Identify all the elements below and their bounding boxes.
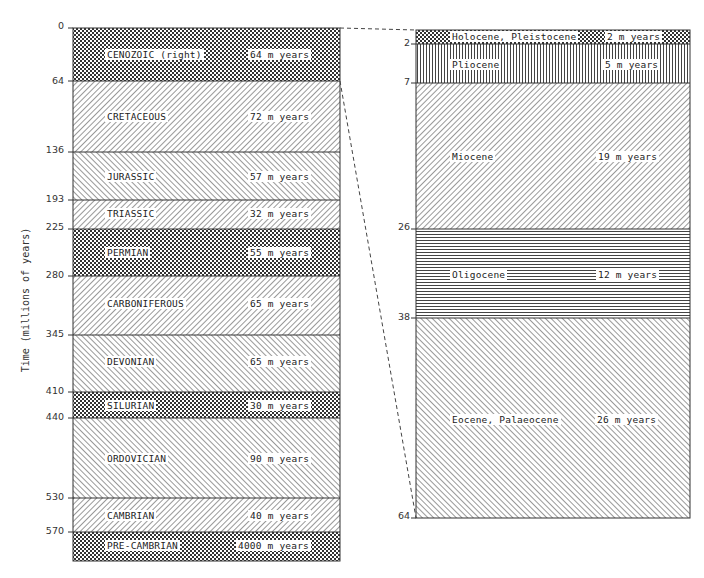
period-name: CARBONIFEROUS bbox=[105, 298, 186, 309]
tick-label: 26 bbox=[376, 222, 410, 232]
epoch-name: Oligocene bbox=[450, 269, 507, 280]
period-name: CRETACEOUS bbox=[105, 111, 168, 122]
period-name: PRE-CAMBRIAN bbox=[105, 540, 180, 551]
geologic-timescale-diagram: Time (millions of years) 0 64 136 193 22… bbox=[0, 0, 704, 578]
epoch-name: Holocene, Pleistocene bbox=[450, 31, 578, 42]
tick-label: 64 bbox=[376, 511, 410, 521]
tick-label: 193 bbox=[30, 194, 64, 204]
tick-label: 570 bbox=[30, 526, 64, 536]
left-column-bands bbox=[73, 28, 340, 561]
period-duration: 30 m years bbox=[248, 400, 311, 411]
period-name: SILURIAN bbox=[105, 400, 156, 411]
period-duration: 32 m years bbox=[248, 208, 311, 219]
period-name: PERMIAN bbox=[105, 247, 150, 258]
tick-label: 345 bbox=[30, 329, 64, 339]
period-duration: 40 m years bbox=[248, 510, 311, 521]
period-name: JURASSIC bbox=[105, 171, 156, 182]
period-duration: 65 m years bbox=[248, 356, 311, 367]
epoch-name: Pliocene bbox=[450, 59, 501, 70]
period-duration: 64 m years bbox=[248, 49, 311, 60]
period-duration: 65 m years bbox=[248, 298, 311, 309]
tick-label: 38 bbox=[376, 312, 410, 322]
period-duration: 55 m years bbox=[248, 247, 311, 258]
period-name: TRIASSIC bbox=[105, 208, 156, 219]
tick-label: 64 bbox=[30, 76, 64, 86]
tick-label: 0 bbox=[30, 21, 64, 31]
tick-label: 530 bbox=[30, 492, 64, 502]
period-duration: 57 m years bbox=[248, 171, 311, 182]
tick-label: 2 bbox=[376, 38, 410, 48]
zoom-connector-lines bbox=[340, 28, 416, 518]
tick-label: 136 bbox=[30, 145, 64, 155]
period-duration: 72 m years bbox=[248, 111, 311, 122]
period-name: CAMBRIAN bbox=[105, 510, 156, 521]
tick-label: 410 bbox=[30, 386, 64, 396]
epoch-duration: 2 m years bbox=[605, 31, 662, 42]
epoch-duration: 19 m years bbox=[596, 151, 659, 162]
period-name: DEVONIAN bbox=[105, 356, 156, 367]
period-name: ORDOVICIAN bbox=[105, 453, 168, 464]
tick-label: 225 bbox=[30, 222, 64, 232]
epoch-duration: 26 m years bbox=[595, 414, 658, 425]
period-duration: 90 m years bbox=[248, 453, 311, 464]
tick-label: 440 bbox=[30, 412, 64, 422]
epoch-duration: 5 m years bbox=[603, 59, 660, 70]
period-duration: 4000 m years bbox=[236, 540, 311, 551]
diagram-canvas bbox=[0, 0, 704, 578]
epoch-name: Eocene, Palaeocene bbox=[450, 414, 561, 425]
epoch-duration: 12 m years bbox=[596, 269, 659, 280]
tick-label: 7 bbox=[376, 77, 410, 87]
epoch-name: Miocene bbox=[450, 151, 495, 162]
period-name: CENOZOIC (right) bbox=[105, 49, 204, 60]
tick-label: 280 bbox=[30, 270, 64, 280]
